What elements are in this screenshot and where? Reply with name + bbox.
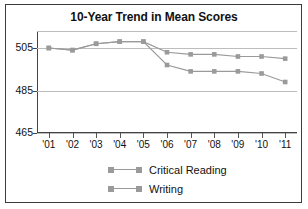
x-axis-tick-label: '02 <box>60 139 86 150</box>
x-axis-tick-mark <box>120 133 121 138</box>
series-line <box>49 42 285 82</box>
legend-item-writing: Writing <box>0 179 308 198</box>
series-critical-reading <box>47 39 288 61</box>
legend-label: Writing <box>149 183 183 195</box>
x-axis-tick-mark <box>285 133 286 138</box>
y-axis-tick-label: 485 <box>3 85 33 95</box>
x-axis-labels: '01'02'03'04'05'06'07'08'09'10'11 <box>37 133 297 155</box>
x-axis-tick-mark <box>238 133 239 138</box>
data-point-marker <box>259 54 264 59</box>
legend-marker-icon <box>108 167 114 173</box>
chart-screenshot: 10-Year Trend in Mean Scores 465485505 '… <box>0 0 308 209</box>
legend-marker-icon <box>136 186 142 192</box>
x-axis-tick-mark <box>96 133 97 138</box>
data-point-marker <box>236 69 241 74</box>
legend-marker-icon <box>136 167 142 173</box>
x-axis-tick-label: '09 <box>225 139 251 150</box>
chart-legend: Critical Reading Writing <box>0 160 308 198</box>
legend-label: Critical Reading <box>149 164 227 176</box>
x-axis-tick-label: '10 <box>249 139 275 150</box>
data-point-marker <box>236 54 241 59</box>
x-axis-tick-label: '01 <box>36 139 62 150</box>
legend-marker-icon <box>108 186 114 192</box>
x-axis-tick-mark <box>49 133 50 138</box>
data-point-marker <box>165 63 170 68</box>
y-axis-tick-label: 505 <box>3 42 33 52</box>
data-point-marker <box>70 48 75 53</box>
data-point-marker <box>165 50 170 55</box>
data-point-marker <box>94 41 99 46</box>
x-axis-tick-mark <box>191 133 192 138</box>
y-axis-labels: 465485505 <box>0 31 33 133</box>
x-axis-tick-mark <box>73 133 74 138</box>
x-axis-tick-label: '08 <box>201 139 227 150</box>
x-axis-tick-mark <box>143 133 144 138</box>
legend-swatch-writing <box>108 184 142 194</box>
x-axis-tick-label: '11 <box>272 139 298 150</box>
x-axis-tick-mark <box>167 133 168 138</box>
x-axis-tick-label: '04 <box>107 139 133 150</box>
legend-item-critical-reading: Critical Reading <box>0 160 308 179</box>
data-point-marker <box>259 71 264 76</box>
x-axis-tick-label: '05 <box>130 139 156 150</box>
x-axis-tick-label: '07 <box>178 139 204 150</box>
data-point-marker <box>47 46 52 51</box>
x-axis-tick-label: '03 <box>83 139 109 150</box>
data-point-marker <box>283 56 288 61</box>
plot-area <box>37 31 297 133</box>
data-point-marker <box>141 39 146 44</box>
series-writing <box>47 39 288 84</box>
data-point-marker <box>283 80 288 85</box>
data-point-marker <box>117 39 122 44</box>
x-axis-tick-label: '06 <box>154 139 180 150</box>
data-point-marker <box>212 69 217 74</box>
x-axis-tick-mark <box>214 133 215 138</box>
x-axis-tick-mark <box>262 133 263 138</box>
y-axis-tick-label: 465 <box>3 127 33 137</box>
chart-title: 10-Year Trend in Mean Scores <box>0 10 308 24</box>
data-point-marker <box>212 52 217 57</box>
data-point-marker <box>188 69 193 74</box>
data-point-marker <box>188 52 193 57</box>
series-layer <box>37 31 297 133</box>
legend-swatch-critical-reading <box>108 165 142 175</box>
